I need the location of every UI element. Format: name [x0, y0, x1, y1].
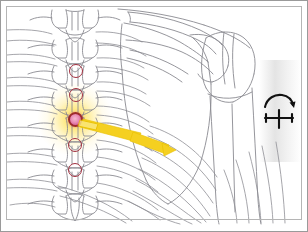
illustration-canvas: Thoracic spine posterior view with trigg…	[0, 0, 308, 232]
rotation-arc-icon[interactable]	[261, 92, 297, 132]
